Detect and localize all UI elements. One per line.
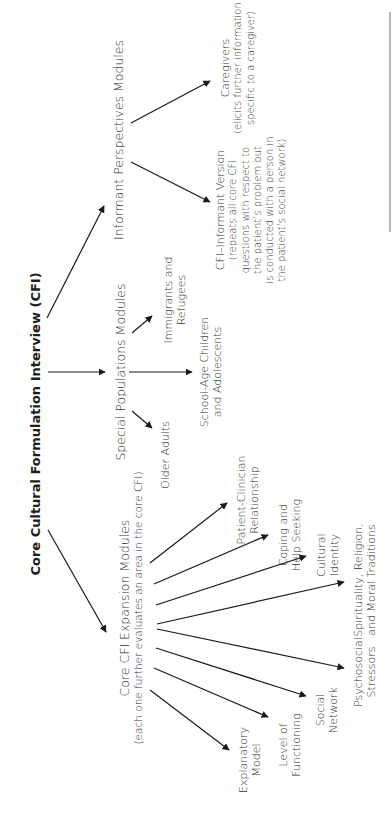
arrow-to-cfi-informant <box>131 162 210 202</box>
level-of-functioning-line: Level of <box>277 713 290 776</box>
cfi-informant-note-line: questions with respect to <box>239 136 251 283</box>
older-adults-line: Older Adults <box>159 421 172 489</box>
school-age-line: and Adolescents <box>211 317 224 427</box>
level-of-functioning-node: Level of Functioning <box>277 713 303 776</box>
school-age-node: School-Age Children and Adolescents <box>198 317 224 427</box>
caregivers-title: Caregivers <box>219 2 232 134</box>
arrow-to-expansion-modules <box>48 530 106 632</box>
spirituality-node: Spirituality, Religion, and Moral Tradit… <box>352 523 378 636</box>
arrow-to-immigrants <box>132 316 152 333</box>
spirituality-line: Spirituality, Religion, <box>352 523 365 636</box>
coping-line: Coping and <box>277 499 290 571</box>
cfi-informant-note-line: the patient’s social network) <box>276 136 288 283</box>
special-populations-modules-label: Special Populations Modules <box>113 283 128 460</box>
social-network-line: Network <box>327 687 340 733</box>
arrow-to-explanatory-model <box>150 690 229 750</box>
arrow-to-patient-clinician <box>150 503 227 563</box>
psychosocial-stressors-node: Psychosocial Stressors <box>352 637 378 707</box>
expansion-modules-sublabel: (each one further evaluates an area in t… <box>132 472 145 745</box>
caregivers-note-line: (elicits further information <box>233 2 245 134</box>
patient-clinician-node: Patient-Clinician Relationship <box>235 456 261 545</box>
older-adults-node: Older Adults <box>159 421 172 489</box>
arrow-to-spirituality <box>157 582 344 624</box>
diagram-title: Core Cultural Formulation Interview (CFI… <box>28 272 44 575</box>
cfi-informant-note-line: (repeats all core CFI <box>227 136 239 283</box>
arrow-to-caregivers <box>131 81 210 123</box>
caregivers-node: Caregivers (elicits further information … <box>219 2 257 134</box>
psychosocial-stressors-line: Stressors <box>365 637 378 707</box>
explanatory-model-line: Model <box>250 727 263 793</box>
social-network-node: Social Network <box>314 687 340 733</box>
arrow-to-older-adults <box>132 411 152 428</box>
cfi-informant-version-title: CFI–Informant Version <box>214 136 227 283</box>
arrow-to-psychosocial-stressors <box>157 629 344 668</box>
cfi-informant-version-node: CFI–Informant Version (repeats all core … <box>214 136 288 283</box>
expansion-modules-node: Core CFI Expansion Modules (each one fur… <box>117 472 145 745</box>
level-of-functioning-line: Functioning <box>290 713 303 776</box>
coping-line: Help Seeking <box>290 499 303 571</box>
cfi-informant-note-line: the patient’s problem but <box>252 136 264 283</box>
arrow-to-level-of-functioning <box>154 668 268 717</box>
social-network-line: Social <box>314 687 327 733</box>
informant-perspectives-modules-label: Informant Perspectives Modules <box>111 40 126 240</box>
immigrants-line: Immigrants and <box>162 257 175 344</box>
cultural-identity-line: Cultural <box>315 533 328 576</box>
patient-clinician-line: Relationship <box>248 456 261 545</box>
arrow-to-informant-modules <box>47 206 104 318</box>
cfi-informant-note-line: is conducted with a person in <box>264 136 276 283</box>
patient-clinician-line: Patient-Clinician <box>235 456 248 545</box>
caregivers-note-line: specific to a caregiver) <box>245 2 257 134</box>
explanatory-model-line: Explanatory <box>237 727 250 793</box>
immigrants-refugees-node: Immigrants and Refugees <box>162 257 188 344</box>
school-age-line: School-Age Children <box>198 317 211 427</box>
expansion-modules-label: Core CFI Expansion Modules <box>117 472 132 745</box>
psychosocial-stressors-line: Psychosocial <box>352 637 365 707</box>
coping-help-seeking-node: Coping and Help Seeking <box>277 499 303 571</box>
cultural-identity-line: Identity <box>328 533 341 576</box>
explanatory-model-node: Explanatory Model <box>237 727 263 793</box>
cultural-identity-node: Cultural Identity <box>315 533 341 576</box>
spirituality-line: and Moral Traditions <box>365 523 378 636</box>
immigrants-line: Refugees <box>175 257 188 344</box>
